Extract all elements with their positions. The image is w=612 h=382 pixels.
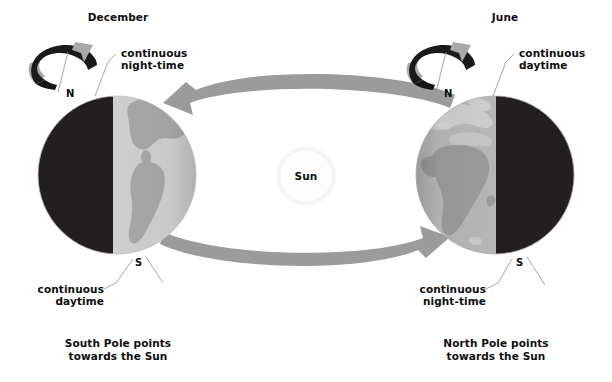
callout-line-1: continuous	[0, 283, 104, 295]
south-pole-letter-right: S	[516, 257, 523, 269]
caption-line-2: towards the Sun	[28, 350, 208, 363]
callout-line-2: daytime	[519, 59, 585, 71]
seasons-diagram: December N S continuous night-time conti…	[0, 0, 612, 382]
orbit-arrow-bottom	[160, 226, 450, 266]
rotation-arrow-icon-left	[29, 42, 97, 90]
callout-continuous-daytime-left: continuous daytime	[0, 283, 104, 307]
caption-north-pole: North Pole points towards the Sun	[406, 337, 586, 363]
callout-line-2: night-time	[121, 59, 187, 71]
night-side-right	[496, 90, 580, 262]
callout-continuous-daytime-right: continuous daytime	[519, 47, 585, 71]
caption-line-1: North Pole points	[406, 337, 586, 350]
season-label-december: December	[58, 11, 178, 23]
callout-line-1: continuous	[519, 47, 585, 59]
callout-line-1: continuous	[121, 47, 187, 59]
night-side-left	[30, 90, 113, 262]
caption-line-1: South Pole points	[28, 337, 208, 350]
caption-south-pole: South Pole points towards the Sun	[28, 337, 208, 363]
callout-line-2: night-time	[382, 295, 486, 307]
north-pole-letter-left: N	[66, 88, 74, 100]
season-label-june: June	[445, 11, 565, 23]
callout-line-1: continuous	[382, 283, 486, 295]
rotation-arrow-icon-right	[407, 42, 475, 90]
caption-line-2: towards the Sun	[406, 350, 586, 363]
north-pole-letter-right: N	[444, 88, 452, 100]
sun-label: Sun	[276, 170, 336, 182]
south-pole-letter-left: S	[135, 257, 142, 269]
callout-continuous-night-time-left: continuous night-time	[121, 47, 187, 71]
callout-line-2: daytime	[0, 295, 104, 307]
continents-americas	[113, 96, 196, 254]
callout-continuous-night-time-right: continuous night-time	[382, 283, 486, 307]
